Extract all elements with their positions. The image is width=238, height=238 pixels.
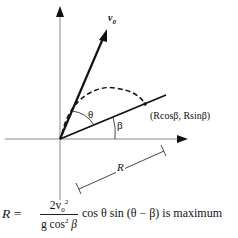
- range-formula: R = 2v02 g cos2 β cos θ sin (θ − β) is m…: [2, 197, 238, 237]
- range-label: R: [116, 162, 125, 173]
- formula-rhs: cos θ sin (θ − β) is maximum: [82, 206, 222, 221]
- trajectory-dashed: [62, 88, 145, 134]
- landing-point: [143, 102, 147, 106]
- y-axis-arrow-icon: [56, 6, 64, 17]
- theta-label: θ: [88, 109, 93, 120]
- x-axis-arrow-icon: [177, 135, 188, 143]
- v0-arrow-icon: [99, 29, 107, 42]
- v0-label: v0: [108, 13, 116, 26]
- beta-label: β: [117, 120, 123, 131]
- formula-lhs: R =: [2, 206, 21, 222]
- formula-numerator: 2v02: [40, 198, 78, 214]
- formula-denominator: g cos2 β: [40, 217, 78, 230]
- point-coordinates-label: (Rcosβ, Rsinβ): [150, 111, 210, 121]
- beta-arc: [113, 117, 115, 139]
